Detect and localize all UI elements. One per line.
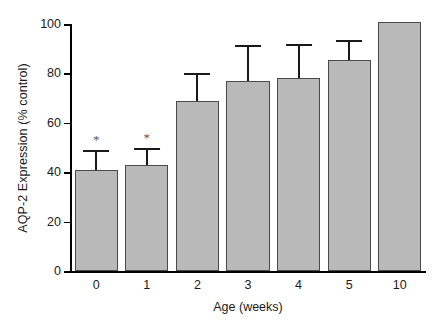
x-tick-label: 0: [93, 278, 100, 292]
bar: [75, 170, 118, 271]
y-tick-label: 20: [47, 215, 61, 229]
x-tick-label: 5: [346, 278, 353, 292]
y-tick-mark: [64, 73, 71, 75]
bar: [378, 22, 421, 271]
x-tick-label: 1: [143, 278, 150, 292]
y-tick-mark: [64, 222, 71, 224]
error-bar-stem: [146, 148, 148, 165]
error-bar-cap: [83, 150, 109, 152]
x-axis-line: [70, 271, 426, 273]
error-bar-cap: [184, 73, 210, 75]
error-bar-cap: [336, 40, 362, 42]
error-bar-stem: [95, 150, 97, 170]
error-bar-cap: [286, 44, 312, 46]
x-tick-label: 4: [295, 278, 302, 292]
y-tick-label: 100: [40, 17, 61, 31]
y-tick-mark: [64, 123, 71, 125]
bar: [226, 81, 269, 271]
error-bar-stem: [298, 44, 300, 79]
plot-area: 020406080100 ** 01234510: [71, 24, 425, 272]
bar: [125, 165, 168, 271]
x-tick-label: 2: [194, 278, 201, 292]
error-bar-cap: [134, 148, 160, 150]
error-bar-stem: [348, 40, 350, 60]
y-tick-label: 80: [47, 66, 61, 80]
significance-marker: *: [144, 130, 151, 143]
x-axis-label: Age (weeks): [71, 300, 425, 314]
bar: [328, 60, 371, 271]
y-tick-mark: [64, 271, 71, 273]
bar: [277, 78, 320, 271]
y-tick-label: 0: [54, 264, 61, 278]
error-bar-stem: [247, 45, 249, 81]
error-bar-stem: [196, 73, 198, 100]
bar: [176, 101, 219, 271]
chart-figure: AQP-2 Expression (% control) Age (weeks)…: [0, 0, 438, 328]
y-tick-mark: [64, 172, 71, 174]
significance-marker: *: [93, 132, 100, 145]
x-tick-label: 10: [393, 278, 407, 292]
y-tick-label: 40: [47, 165, 61, 179]
error-bar-cap: [235, 45, 261, 47]
x-tick-label: 3: [245, 278, 252, 292]
y-axis-label: AQP-2 Expression (% control): [12, 13, 34, 283]
y-tick-mark: [64, 24, 71, 26]
y-axis-line: [70, 24, 72, 273]
y-tick-label: 60: [47, 116, 61, 130]
